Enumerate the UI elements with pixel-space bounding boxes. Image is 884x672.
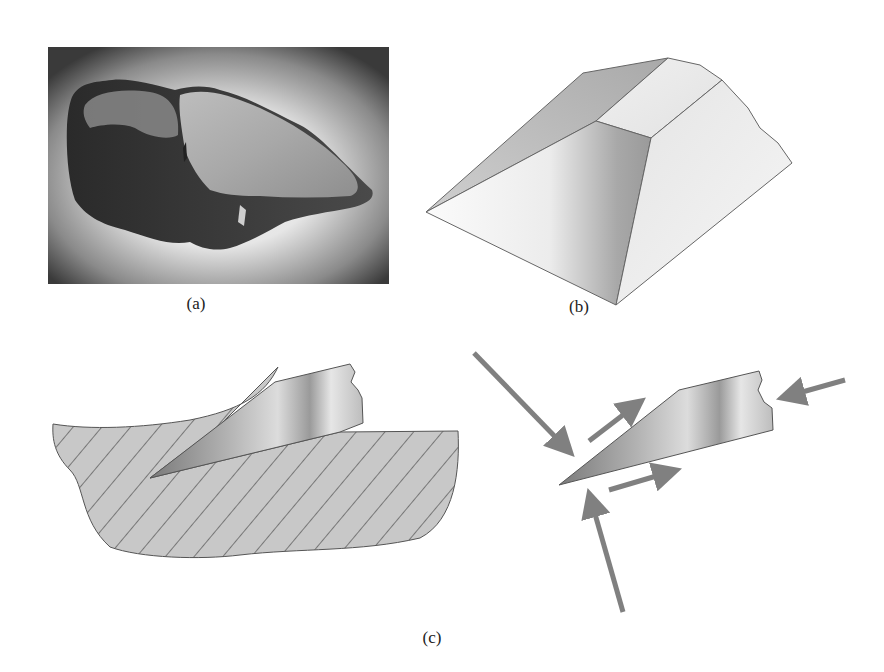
panel-c-cut-section bbox=[53, 364, 459, 558]
figure-canvas bbox=[0, 0, 884, 672]
arrow-top-left bbox=[474, 353, 566, 448]
panel-b-wedge-model bbox=[426, 58, 792, 305]
caption-b: (b) bbox=[549, 297, 609, 317]
caption-a: (a) bbox=[166, 294, 226, 314]
panel-c-force-diagram bbox=[474, 353, 845, 612]
arrow-right bbox=[788, 380, 845, 396]
arrow-lower-edge bbox=[609, 472, 670, 490]
caption-c: (c) bbox=[402, 628, 462, 648]
panel-a-photo bbox=[48, 47, 389, 284]
arrow-bottom bbox=[591, 500, 623, 612]
